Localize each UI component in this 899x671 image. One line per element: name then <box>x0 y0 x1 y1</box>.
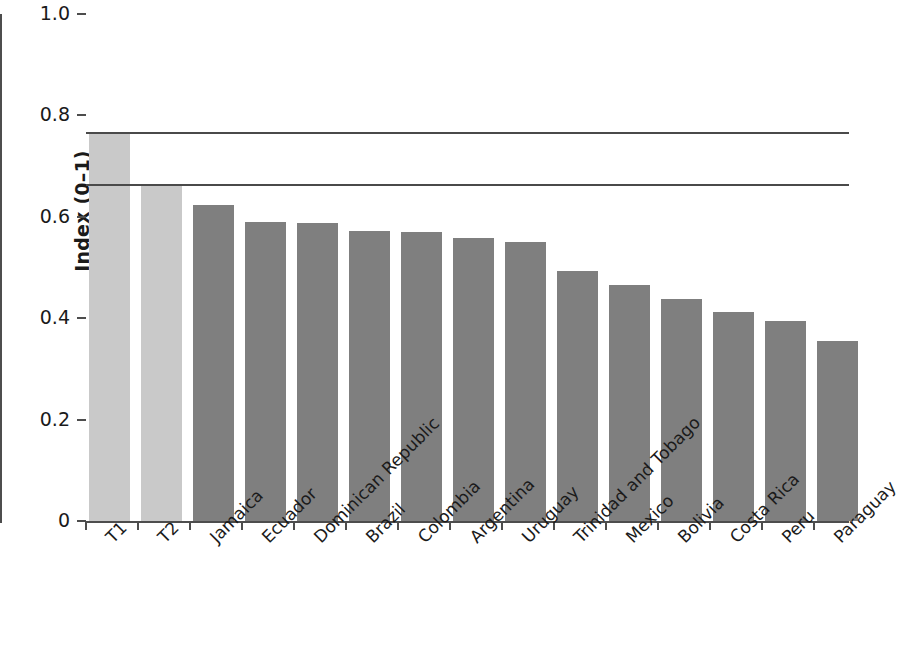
x-axis-tick <box>293 521 295 530</box>
bar-ecuador <box>245 222 286 521</box>
x-axis-tick <box>709 521 711 530</box>
x-axis-tick <box>657 521 659 530</box>
x-axis-label-t2: T2 <box>155 519 182 546</box>
x-axis-tick <box>605 521 607 530</box>
bar-t1 <box>89 133 130 521</box>
x-axis-tick <box>345 521 347 530</box>
x-axis-tick <box>85 521 87 530</box>
x-axis-line <box>85 521 849 523</box>
x-axis-tick <box>761 521 763 530</box>
bar-peru <box>765 321 806 521</box>
x-axis-tick <box>449 521 451 530</box>
reference-line-1 <box>86 132 849 134</box>
bar-trinidad-and-tobago <box>557 271 598 521</box>
x-axis-tick <box>553 521 555 530</box>
x-axis-tick <box>137 521 139 530</box>
bar-colombia <box>401 232 442 521</box>
bar-dominican-republic <box>297 223 338 521</box>
bar-argentina <box>453 238 494 521</box>
x-axis-tick <box>189 521 191 530</box>
bar-uruguay <box>505 242 546 521</box>
x-axis-label-t1: T1 <box>103 519 130 546</box>
bar-series <box>0 0 849 521</box>
x-axis-tick <box>397 521 399 530</box>
bar-mexico <box>609 285 650 521</box>
bar-jamaica <box>193 205 234 521</box>
x-axis-tick <box>241 521 243 530</box>
x-axis-tick <box>813 521 815 530</box>
x-axis-tick <box>501 521 503 530</box>
bar-bolivia <box>661 299 702 521</box>
reference-line-2 <box>86 184 849 186</box>
bar-costa-rica <box>713 312 754 521</box>
bar-brazil <box>349 231 390 522</box>
bar-t2 <box>141 185 182 521</box>
bar-paraguay <box>817 341 858 521</box>
